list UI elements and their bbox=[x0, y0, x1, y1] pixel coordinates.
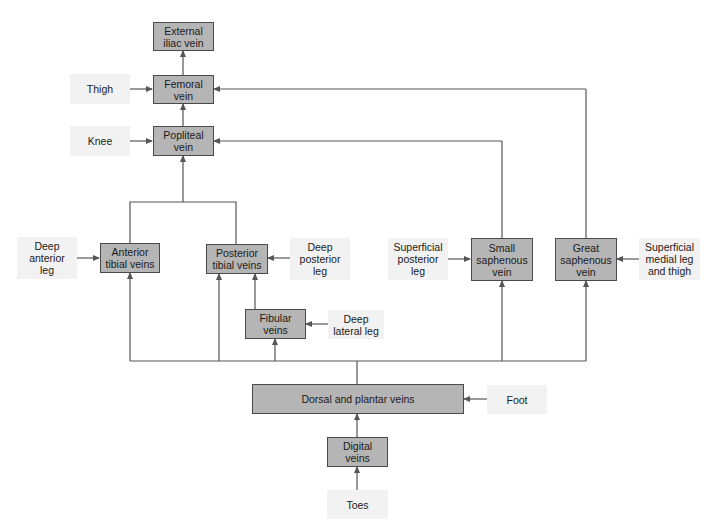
anterior-tibial-veins-box: Anterior tibial veins bbox=[100, 243, 160, 273]
region-knee: Knee bbox=[70, 126, 130, 156]
great-saphenous-vein-box: Great saphenous vein bbox=[555, 238, 617, 281]
femoral-vein-box: Femoral vein bbox=[153, 75, 214, 104]
region-deep-anterior-leg: Deep anterior leg bbox=[17, 237, 77, 279]
region-deep-posterior-leg: Deep posterior leg bbox=[290, 238, 350, 280]
external-iliac-vein-box: External iliac vein bbox=[153, 22, 214, 51]
posterior-tibial-veins-box: Posterior tibial veins bbox=[206, 244, 268, 274]
venous-drainage-diagram: External iliac vein Femoral vein Poplite… bbox=[0, 0, 715, 531]
region-toes: Toes bbox=[327, 490, 388, 519]
digital-veins-box: Digital veins bbox=[327, 437, 388, 467]
dorsal-plantar-veins-box: Dorsal and plantar veins bbox=[252, 384, 464, 414]
region-superficial-medial-leg-thigh: Superficial medial leg and thigh bbox=[639, 238, 700, 280]
small-saphenous-vein-box: Small saphenous vein bbox=[471, 238, 533, 281]
region-foot: Foot bbox=[487, 385, 547, 414]
region-deep-lateral-leg: Deep lateral leg bbox=[328, 310, 384, 339]
popliteal-vein-box: Popliteal vein bbox=[153, 126, 214, 156]
region-superficial-posterior-leg: Superficial posterior leg bbox=[388, 238, 448, 280]
fibular-veins-box: Fibular veins bbox=[245, 309, 306, 339]
region-thigh: Thigh bbox=[70, 74, 130, 104]
